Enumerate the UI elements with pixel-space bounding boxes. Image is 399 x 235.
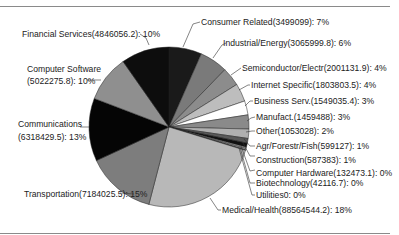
label-biotechnology: Biotechnology(42116.7): 0% xyxy=(256,178,364,188)
label-financial-services: Financial Services(4846056.2): 10% xyxy=(22,29,160,39)
pie-chart: Consumer Related(3499099): 7% Industrial… xyxy=(0,0,399,235)
pie-slices xyxy=(89,47,249,207)
label-construction: Construction(587383): 1% xyxy=(256,155,356,165)
label-agr-forestr-fish: Agr/Forestr/Fish(599127): 1% xyxy=(256,141,370,151)
label-business-serv: Business Serv.(1549035.4): 3% xyxy=(254,96,375,106)
label-transportation: Transportation(7184025.5): 15% xyxy=(24,189,148,199)
label-medical-health: Medical/Health(88564544.2): 18% xyxy=(222,205,352,215)
label-computer-software-line2: (5022275.8): 10% xyxy=(27,76,96,86)
label-other: Other(1053028): 2% xyxy=(256,126,334,136)
label-manufact: Manufact.(1459488): 3% xyxy=(256,112,350,122)
label-semiconductor: Semiconductor/Electr(2001131.9): 4% xyxy=(242,63,387,73)
label-consumer-related: Consumer Related(3499099): 7% xyxy=(201,17,329,27)
label-computer-software-line1: Computer Software xyxy=(27,64,101,74)
label-industrial-energy: Industrial/Energy(3065999.8): 6% xyxy=(223,38,351,48)
label-utilities: Utilities0: 0% xyxy=(256,190,306,200)
label-communications-line2: (6318429.5): 13% xyxy=(18,132,87,142)
label-communications-line1: Communications xyxy=(18,119,82,129)
label-internet-specific: Internet Specific(1803803.5): 4% xyxy=(251,80,377,90)
label-computer-hardware: Computer Hardware(132473.1): 0% xyxy=(256,168,392,178)
